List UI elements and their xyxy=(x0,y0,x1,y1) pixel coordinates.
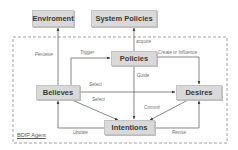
label-commit: Commit xyxy=(144,106,160,111)
label-acquire: acquire xyxy=(136,40,151,45)
edge-create-or-influence xyxy=(157,57,199,84)
node-believes: Believes xyxy=(36,85,80,100)
node-desires: Desires xyxy=(176,85,222,100)
label-create-or-influence: Create or Influence xyxy=(158,51,197,56)
node-intentions: Intentions xyxy=(104,120,155,135)
node-policies: Policies xyxy=(111,51,157,66)
agent-frame-label: BDIP Agent xyxy=(17,133,46,139)
edge-trigger xyxy=(71,58,110,85)
label-revise: Revise xyxy=(172,131,186,136)
node-system-policies: System Policies xyxy=(91,10,157,27)
label-perceive: Perceive xyxy=(35,53,53,58)
edge-revise xyxy=(155,101,199,128)
edge-update xyxy=(58,101,104,128)
edge-select-intentions xyxy=(72,100,118,120)
label-trigger: Trigger xyxy=(80,51,94,56)
label-select-intentions: Select xyxy=(92,98,105,103)
label-update: Update xyxy=(73,131,88,136)
node-environment: Enviroment xyxy=(32,10,74,27)
label-guide: Guide xyxy=(137,74,149,79)
label-select-desires: Select xyxy=(89,83,102,88)
